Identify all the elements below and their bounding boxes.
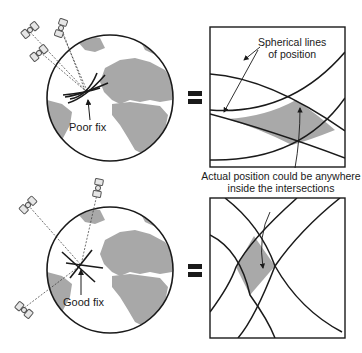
spherical-lines-label: Spherical lines of position [258, 36, 326, 60]
earth-globe-icon-top [46, 35, 175, 161]
satellite-icon [15, 301, 34, 319]
poor-fix-label: Poor fix [69, 121, 106, 133]
actual-position-label-line1: Actual position could be anywhere [200, 170, 362, 182]
satellite-icon [19, 196, 37, 214]
actual-position-label: Actual position could be anywhere inside… [200, 170, 362, 194]
equals-sign-icon-bottom [188, 264, 202, 277]
good-fix-label: Good fix [63, 296, 104, 308]
satellite-icon [30, 44, 49, 62]
spherical-lines-label-line1: Spherical lines [258, 36, 326, 48]
actual-position-label-line2: inside the intersections [200, 182, 362, 194]
satellite-icon [21, 21, 40, 39]
satellite-icon [92, 178, 103, 197]
satellite-icon [54, 18, 68, 38]
spherical-lines-label-line2: of position [258, 48, 326, 60]
equals-sign-icon-top [188, 91, 202, 104]
earth-globe-icon-bottom [46, 207, 175, 333]
lines-of-position-box-bottom [210, 198, 345, 338]
